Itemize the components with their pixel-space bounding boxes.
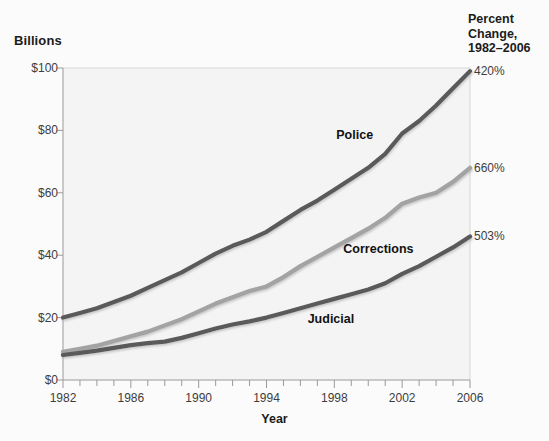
series-label-police: Police	[336, 128, 373, 142]
x-axis-tick-label: 1982	[50, 391, 77, 405]
y-axis-tick-label: $20	[12, 311, 58, 325]
x-axis-tick-label: 2002	[389, 391, 416, 405]
percent-change-value-police: 420%	[474, 64, 505, 78]
y-axis-tick-label: $40	[12, 248, 58, 262]
clipped-edge-artifact	[536, 368, 547, 420]
percent-change-value-corrections: 660%	[474, 161, 505, 175]
line-chart-plot	[0, 0, 549, 441]
x-axis-tick-label: 1998	[321, 391, 348, 405]
series-label-corrections: Corrections	[343, 242, 413, 256]
y-axis-tick-label: $80	[12, 123, 58, 137]
percent-change-value-judicial: 503%	[474, 229, 505, 243]
y-axis-tick-labels: $0$20$40$60$80$100	[6, 0, 58, 441]
x-axis-tick-label: 2006	[457, 391, 484, 405]
chart-screenshot: Billions Percent Change, 1982–2006 $0$20…	[0, 0, 549, 441]
y-axis-tick-label: $100	[12, 61, 58, 75]
x-axis-tick-label: 1994	[253, 391, 280, 405]
x-axis-tick-label: 1990	[185, 391, 212, 405]
y-axis-tick-label: $0	[12, 373, 58, 387]
plot-background	[63, 68, 470, 380]
series-label-judicial: Judicial	[308, 312, 355, 326]
x-axis-title: Year	[0, 412, 549, 426]
y-axis-tick-label: $60	[12, 186, 58, 200]
x-axis-tick-label: 1986	[117, 391, 144, 405]
